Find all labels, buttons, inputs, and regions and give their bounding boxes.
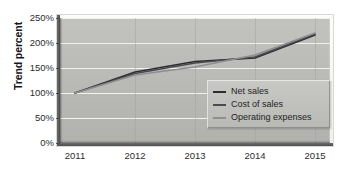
y-axis-tick-label: 200%	[24, 38, 54, 48]
x-axis-tick-label: 2014	[244, 150, 265, 161]
legend-line-swatch-icon	[213, 104, 226, 106]
x-axis-tick-label: 2015	[304, 150, 325, 161]
chart-figure: Trend percent 0%50%100%150%200%250% 2011…	[0, 0, 342, 176]
chart-legend[interactable]: Net salesCost of salesOperating expenses	[207, 80, 330, 128]
y-axis-tick-mark	[56, 118, 60, 119]
y-axis-tick-label: 250%	[24, 13, 54, 23]
x-axis-tick-labels: 20112012201320142015	[60, 150, 330, 168]
y-axis-tick-label: 100%	[24, 88, 54, 98]
legend-item-label: Operating expenses	[231, 113, 312, 122]
legend-item-label: Cost of sales	[231, 100, 283, 109]
legend-line-swatch-icon	[213, 117, 226, 119]
y-axis-tick-label: 150%	[24, 63, 54, 73]
y-axis-tick-label: 50%	[24, 113, 54, 123]
legend-item[interactable]: Cost of sales	[213, 98, 326, 111]
y-axis-tick-labels: 0%50%100%150%200%250%	[24, 0, 54, 176]
y-axis-tick-mark	[56, 143, 60, 144]
legend-item-label: Net sales	[231, 87, 269, 96]
y-axis-tick-mark	[56, 43, 60, 44]
y-axis-tick-mark	[56, 68, 60, 69]
legend-item[interactable]: Net sales	[213, 85, 326, 98]
x-axis-tick-label: 2013	[184, 150, 205, 161]
y-axis-tick-mark	[56, 18, 60, 19]
x-axis-spine	[57, 143, 333, 146]
legend-line-swatch-icon	[213, 91, 226, 93]
y-axis-title: Trend percent	[12, 1, 24, 111]
legend-item[interactable]: Operating expenses	[213, 111, 326, 124]
x-axis-tick-label: 2012	[124, 150, 145, 161]
y-axis-tick-label: 0%	[24, 138, 54, 148]
y-axis-tick-mark	[56, 93, 60, 94]
x-axis-tick-label: 2011	[65, 150, 85, 161]
